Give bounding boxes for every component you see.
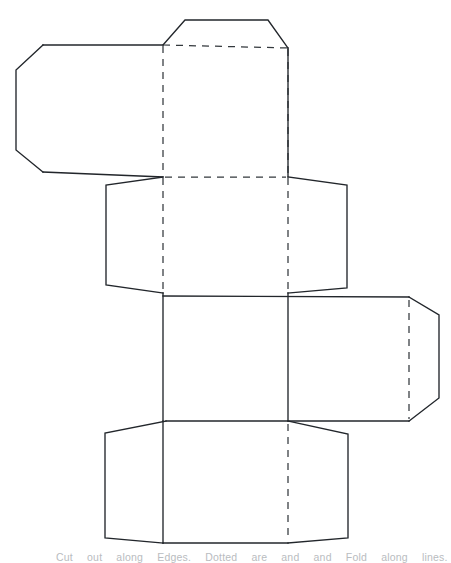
panel-band2-main — [163, 177, 288, 293]
panel-band3-main — [163, 296, 409, 421]
box-net-diagram — [0, 0, 451, 563]
panel-band1-main — [43, 45, 288, 177]
panel-band4-main — [163, 421, 288, 543]
box-net-page: Cut out along Edges. Dotted are and and … — [0, 0, 451, 563]
panel-band2-left-flap — [106, 177, 163, 293]
panel-band4-left-flap — [105, 421, 166, 543]
panel-band4-right-flap — [288, 421, 348, 543]
caption: Cut out along Edges. Dotted are and and … — [0, 551, 451, 563]
caption-text: Cut out along Edges. Dotted are and and … — [0, 551, 451, 563]
panel-band2-right-flap — [288, 177, 347, 293]
